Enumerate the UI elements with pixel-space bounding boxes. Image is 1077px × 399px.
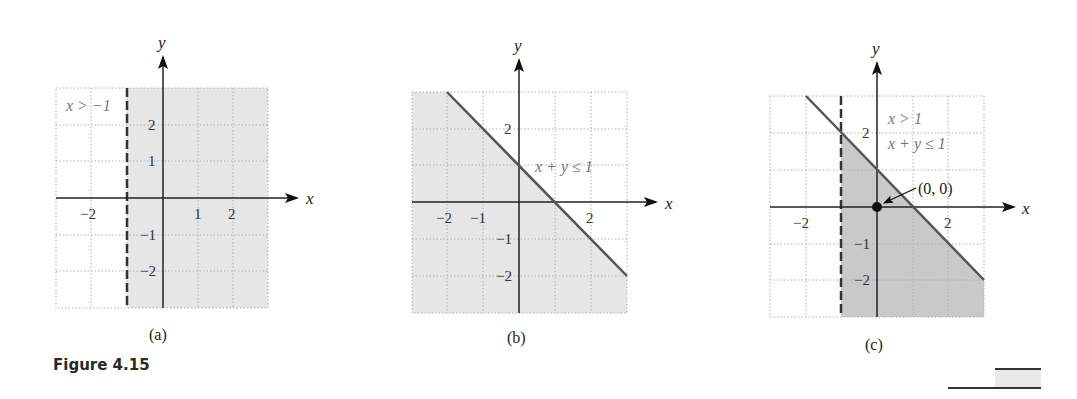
inequality-label-1: x > 1 bbox=[887, 110, 922, 127]
svg-text:1: 1 bbox=[148, 153, 156, 169]
svg-text:−1: −1 bbox=[854, 236, 870, 252]
svg-text:−1: −1 bbox=[496, 231, 512, 247]
x-axis-label: x bbox=[664, 194, 673, 213]
panel-c: x y x > 1 x + y ≤ 1 (0, 0) −2 2 2 −1 −2 … bbox=[770, 39, 1030, 354]
svg-text:1: 1 bbox=[194, 206, 202, 222]
svg-text:2: 2 bbox=[586, 210, 594, 226]
svg-text:−1: −1 bbox=[470, 210, 486, 226]
panel-caption: (c) bbox=[865, 336, 883, 354]
svg-text:−2: −2 bbox=[496, 268, 512, 284]
inequality-label: x > −1 bbox=[65, 97, 111, 114]
y-axis-label: y bbox=[870, 39, 880, 58]
panel-caption: (b) bbox=[507, 329, 526, 347]
svg-text:−2: −2 bbox=[80, 206, 96, 222]
svg-text:2: 2 bbox=[148, 117, 156, 133]
svg-text:2: 2 bbox=[228, 206, 236, 222]
svg-text:−2: −2 bbox=[436, 210, 452, 226]
panel-b: x y x + y ≤ 1 −2 −1 2 2 −1 −2 (b) bbox=[412, 36, 673, 347]
svg-text:2: 2 bbox=[862, 125, 870, 141]
figure-canvas: x y x > −1 −2 1 2 2 1 −1 −2 (a) bbox=[0, 0, 1077, 399]
svg-text:−1: −1 bbox=[140, 227, 156, 243]
corner-decoration bbox=[948, 369, 1041, 388]
panel-a: x y x > −1 −2 1 2 2 1 −1 −2 (a) bbox=[56, 33, 314, 344]
figure-title: Figure 4.15 bbox=[53, 356, 150, 374]
x-axis-label: x bbox=[1021, 199, 1030, 218]
test-point-origin bbox=[872, 202, 882, 212]
inequality-label: x + y ≤ 1 bbox=[534, 158, 593, 176]
y-axis-label: y bbox=[156, 33, 166, 52]
svg-text:2: 2 bbox=[504, 121, 512, 137]
x-axis-label: x bbox=[305, 189, 314, 208]
svg-text:2: 2 bbox=[944, 215, 952, 231]
svg-text:−2: −2 bbox=[793, 215, 809, 231]
svg-text:−2: −2 bbox=[854, 272, 870, 288]
inequality-label-2: x + y ≤ 1 bbox=[887, 135, 946, 153]
point-label: (0, 0) bbox=[918, 180, 953, 198]
y-axis-label: y bbox=[512, 36, 522, 55]
panel-caption: (a) bbox=[149, 326, 167, 344]
svg-text:−2: −2 bbox=[140, 263, 156, 279]
